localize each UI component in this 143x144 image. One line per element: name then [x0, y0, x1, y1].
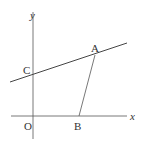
y-axis-label: y — [29, 9, 35, 21]
coordinate-diagram: y x O A B C — [0, 0, 143, 144]
point-c-label: C — [23, 64, 30, 76]
point-b-label: B — [74, 120, 81, 132]
origin-label: O — [24, 120, 32, 132]
segment-ab — [79, 55, 95, 116]
x-axis-label: x — [129, 110, 135, 122]
line-through-c-and-a — [10, 43, 127, 82]
point-a-label: A — [91, 42, 99, 54]
